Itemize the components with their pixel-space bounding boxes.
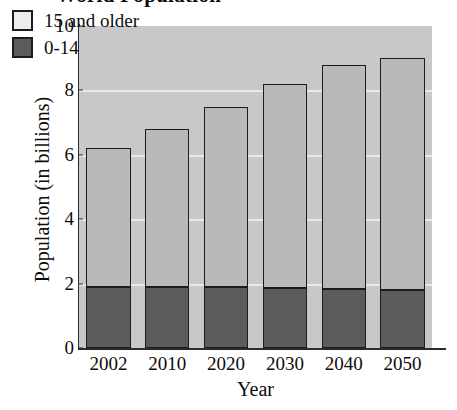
x-axis-title: Year [79,378,432,401]
bar-stack[interactable] [263,26,307,348]
bar-stack[interactable] [380,26,424,348]
x-tick-label: 2030 [256,352,315,376]
y-tick-label: 6 [40,145,74,164]
bar-segment-0-14[interactable] [86,287,130,348]
y-tick-mark [78,348,83,349]
bar-stack[interactable] [86,26,130,348]
gridline [79,284,432,286]
bar-stack[interactable] [204,26,248,348]
legend-swatch-icon [12,37,33,58]
bar-segment-0-14[interactable] [263,288,307,348]
y-tick-label: 0 [40,338,74,357]
bar-segment-0-14[interactable] [380,290,424,348]
chart-legend: 15 and older0-14 [12,7,139,61]
y-tick-mark [78,26,83,27]
bar-stack[interactable] [145,26,189,348]
legend-item[interactable]: 0-14 [12,34,139,60]
x-tick-label: 2010 [138,352,197,376]
bar-segment-15-and-older[interactable] [145,129,189,287]
plot-area [79,26,432,348]
y-tick-mark [78,90,83,91]
gridline [79,219,432,221]
bar-segment-0-14[interactable] [145,287,189,348]
gridline [79,90,432,92]
bar-segment-15-and-older[interactable] [380,58,424,290]
y-tick-mark [78,219,83,220]
gridline [79,155,432,157]
x-tick-label: 2050 [373,352,432,376]
x-axis-line [78,348,446,350]
bar-segment-15-and-older[interactable] [263,84,307,288]
legend-swatch-icon [12,10,33,31]
y-tick-mark [78,154,83,155]
x-tick-label: 2020 [197,352,256,376]
y-tick-label: 2 [40,274,74,293]
bar-segment-15-and-older[interactable] [322,65,366,290]
legend-label: 0-14 [44,38,79,57]
y-tick-label: 4 [40,209,74,228]
x-axis-tick-labels: 200220102020203020402050 [79,352,432,378]
x-tick-label: 2002 [79,352,138,376]
legend-label: 15 and older [44,11,139,30]
bar-stack[interactable] [322,26,366,348]
y-tick-mark [78,283,83,284]
bar-segment-0-14[interactable] [204,287,248,348]
legend-item[interactable]: 15 and older [12,7,139,33]
y-tick-label: 8 [40,80,74,99]
chart-title: World Population [56,0,316,7]
bar-segment-0-14[interactable] [322,289,366,348]
x-tick-label: 2040 [314,352,373,376]
y-axis-tick-labels: 0246810 [40,26,74,348]
bar-segment-15-and-older[interactable] [204,107,248,288]
bar-segment-15-and-older[interactable] [86,148,130,286]
